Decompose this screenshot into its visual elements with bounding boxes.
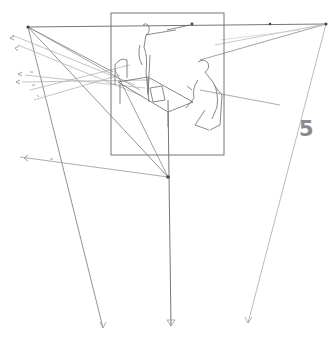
left-arrow-marks [10, 36, 53, 161]
horizon-line [28, 24, 326, 27]
sketch-canvas [0, 0, 334, 344]
left-vp-lines [28, 27, 168, 328]
bottom-arrow-markers [100, 317, 252, 328]
page-number-label: 5 [299, 117, 314, 141]
vertical-axis [168, 100, 171, 326]
right-vp-lines [200, 24, 326, 323]
